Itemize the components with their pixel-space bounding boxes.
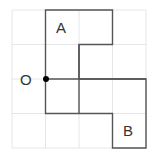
grid-diagram: A O B [0,0,155,159]
point-o [43,76,49,82]
label-a: A [56,19,66,36]
label-b: B [123,122,133,139]
label-o: O [20,71,32,88]
